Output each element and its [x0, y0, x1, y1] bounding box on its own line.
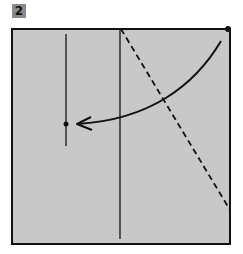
corner-dot — [225, 26, 231, 32]
target-dot — [64, 122, 69, 127]
paper-square — [12, 29, 230, 244]
origami-diagram — [0, 0, 243, 254]
